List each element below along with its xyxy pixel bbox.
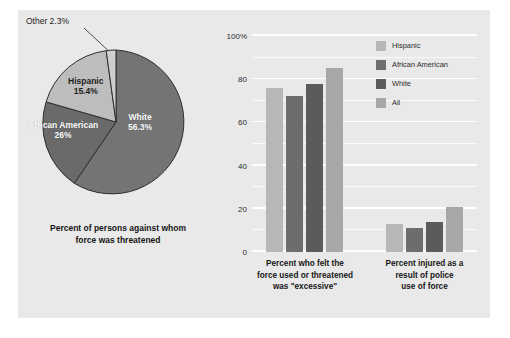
legend-item-african-american: African American <box>376 55 486 74</box>
pie-caption-line1: Percent of persons against whom <box>50 223 186 233</box>
legend-label-african-american: African American <box>392 60 448 69</box>
pie-caption-line2: force was threatened <box>75 235 160 245</box>
bar-g2-white <box>426 222 443 252</box>
ytick-60: 60 <box>238 118 247 127</box>
group2-line3: use of force <box>401 282 447 291</box>
group2-line2: result of police <box>395 271 453 280</box>
ytick-40: 40 <box>238 161 247 170</box>
pie-label-african-american: African American 26% <box>28 120 98 141</box>
group2-line1: Percent injured as a <box>386 259 464 268</box>
pie-label-white: White 56.3% <box>128 112 152 133</box>
legend-swatch-all <box>376 98 386 108</box>
bar-chart: 100% 80 60 40 20 0 Percent who felt the … <box>218 10 490 318</box>
legend-swatch-white <box>376 79 386 89</box>
ytick-80: 80 <box>238 75 247 84</box>
legend-label-hispanic: Hispanic <box>392 41 420 50</box>
bar-g2-african-american <box>406 228 423 252</box>
ytick-20: 20 <box>238 204 247 213</box>
legend-swatch-african-american <box>376 60 386 70</box>
pie-graphic: White 56.3% African American 26% Hispani… <box>40 46 192 198</box>
legend-label-white: White <box>392 79 411 88</box>
pie-caption: Percent of persons against whom force wa… <box>18 222 218 247</box>
bar-g2-hispanic <box>386 224 403 252</box>
group1-line3: was "excessive" <box>273 282 337 291</box>
group1-line1: Percent who felt the <box>266 259 344 268</box>
pie-label-aa-value: 26% <box>55 130 72 140</box>
bar-g1-african-american <box>286 96 303 252</box>
legend-label-all: All <box>392 98 400 107</box>
group-label-excessive-force: Percent who felt the force used or threa… <box>240 258 370 293</box>
group1-line2: force used or threatened <box>257 271 353 280</box>
pie-label-hispanic-name: Hispanic <box>68 76 103 86</box>
pie-label-aa-name: African American <box>28 120 98 130</box>
pie-label-hispanic: Hispanic 15.4% <box>68 76 103 97</box>
legend-item-white: White <box>376 74 486 93</box>
legend-swatch-hispanic <box>376 41 386 51</box>
bar-g1-hispanic <box>266 88 283 252</box>
legend-item-all: All <box>376 93 486 112</box>
legend-item-hispanic: Hispanic <box>376 36 486 55</box>
bar-g2-all <box>446 207 463 252</box>
bar-g1-all <box>326 68 343 252</box>
figure-panel: Other 2.3% White 56.3% African American <box>18 10 490 318</box>
pie-label-white-value: 56.3% <box>128 122 152 132</box>
ytick-100: 100% <box>227 32 247 41</box>
ytick-0: 0 <box>243 248 247 257</box>
group-label-injured: Percent injured as a result of police us… <box>367 258 482 293</box>
pie-label-white-name: White <box>128 112 151 122</box>
pie-chart: Other 2.3% White 56.3% African American <box>18 10 218 318</box>
bar-legend: Hispanic African American White All <box>376 36 486 112</box>
pie-label-hispanic-value: 15.4% <box>74 86 98 96</box>
bar-g1-white <box>306 84 323 252</box>
